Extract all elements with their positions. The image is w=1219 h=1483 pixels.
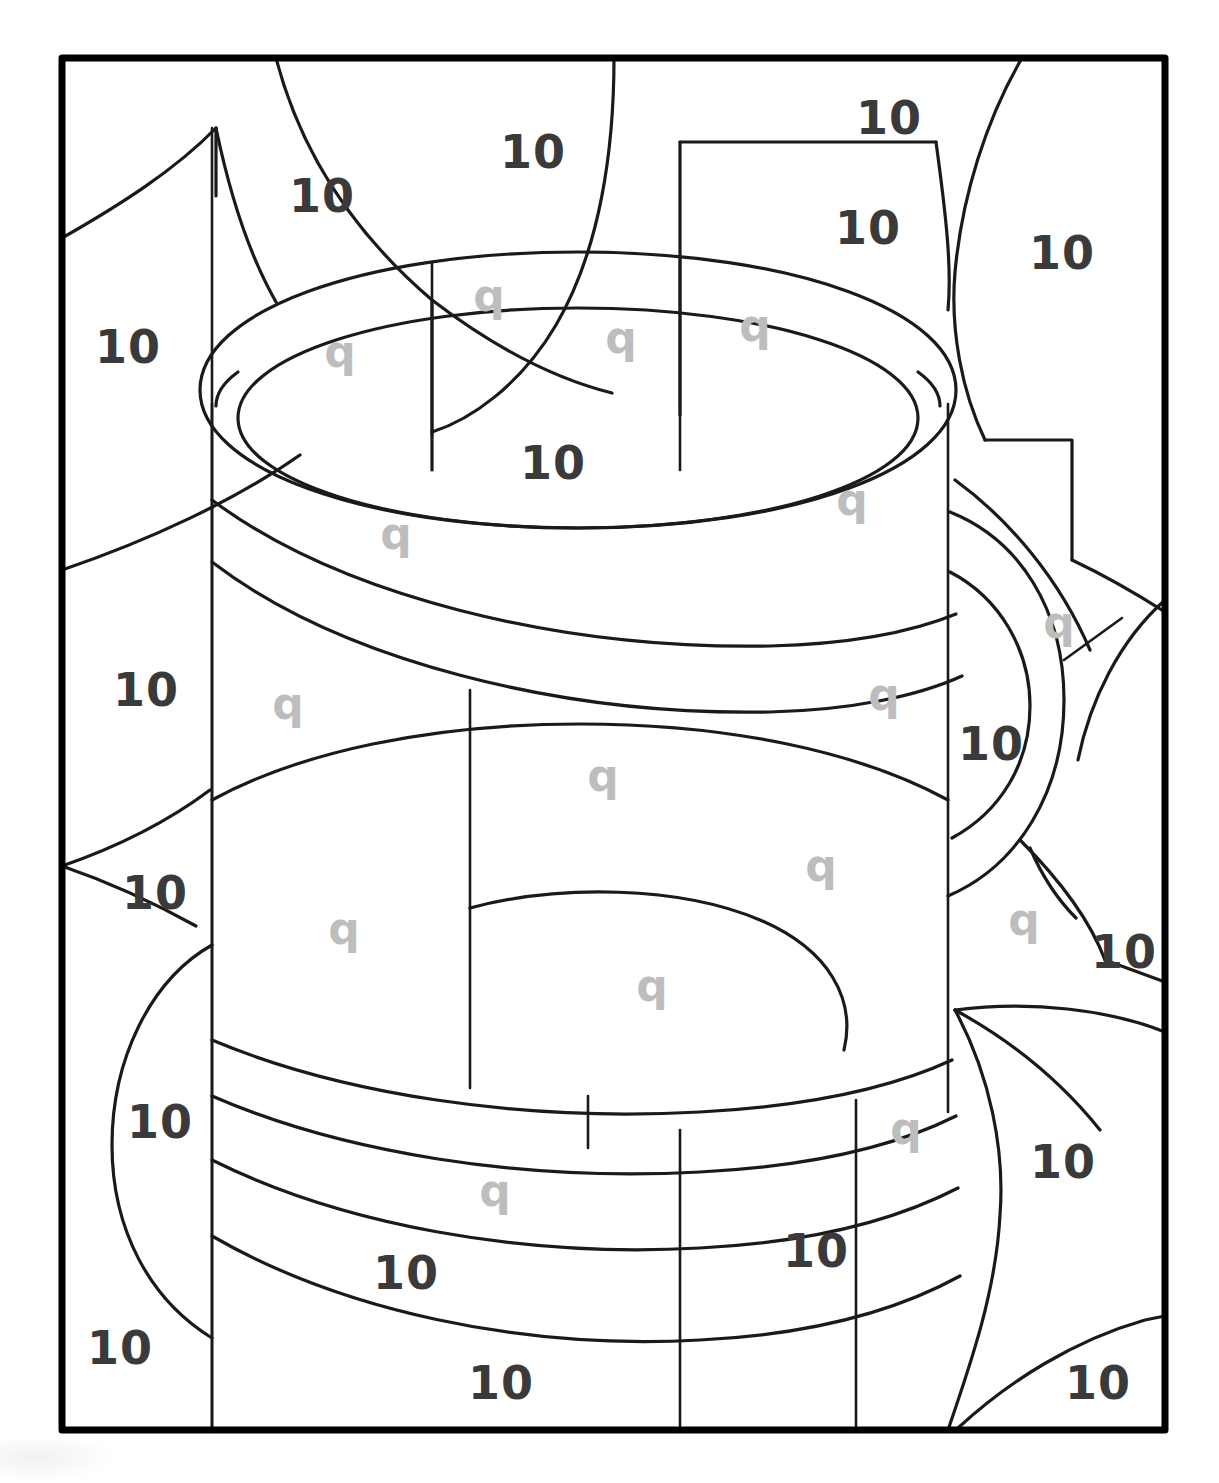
mug-mid-ellipse-bottom: [212, 800, 948, 876]
region-letter-label: q: [636, 964, 668, 1008]
region-number-label: 10: [835, 205, 901, 251]
region-number-label: 10: [1029, 230, 1095, 276]
bg-line-right-lower-b: [948, 1010, 1001, 1430]
bg-line-tl-wedge: [62, 128, 216, 238]
region-number-label: 10: [958, 721, 1024, 767]
region-number-label: 10: [783, 1228, 849, 1274]
region-letter-label: q: [324, 330, 356, 374]
bg-line-right-lower-c: [955, 1010, 1100, 1130]
region-letter-label: q: [473, 274, 505, 318]
mug-line-art: [0, 0, 1219, 1483]
mug-band2-bottom: [212, 1096, 956, 1174]
mug-handle-inner-arc: [950, 572, 1030, 838]
mug-mid-ellipse-second: [212, 762, 948, 838]
region-letter-label: q: [479, 1169, 511, 1213]
region-letter-label: q: [739, 304, 771, 348]
region-letter-label: q: [836, 478, 868, 522]
bg-line-right-upper: [1072, 560, 1165, 612]
bg-line-tl-wedge-right: [216, 128, 276, 302]
bg-line-right-mid-b: [1078, 600, 1165, 760]
region-letter-label: q: [868, 673, 900, 717]
mug-rim-hook-left: [216, 372, 238, 406]
region-number-label: 10: [500, 129, 566, 175]
region-number-label: 10: [289, 173, 355, 219]
region-number-label: 10: [468, 1360, 534, 1406]
bg-line-top-sweep-mid: [432, 58, 614, 432]
mug-rim-hook-right: [918, 372, 940, 406]
mug-band2-top: [212, 1040, 952, 1114]
bg-line-top-right-curve: [954, 58, 1022, 440]
region-number-label: 10: [1091, 929, 1157, 975]
region-number-label: 10: [95, 324, 161, 370]
region-letter-label: q: [890, 1107, 922, 1151]
region-number-label: 10: [1030, 1139, 1096, 1185]
region-number-label: 10: [113, 667, 179, 713]
region-number-label: 10: [856, 95, 922, 141]
bg-line-left-mid-curve-b: [62, 790, 210, 866]
region-letter-label: q: [605, 316, 637, 360]
region-number-label: 10: [87, 1325, 153, 1371]
mug-band1-bottom: [212, 562, 962, 712]
mug-mid-ellipse-top: [212, 724, 948, 800]
region-letter-label: q: [805, 844, 837, 888]
region-letter-label: q: [1008, 898, 1040, 942]
region-number-label: 10: [127, 1099, 193, 1145]
region-letter-label: q: [1043, 601, 1075, 645]
bg-line-bottom-right-curve: [958, 1316, 1165, 1428]
region-number-label: 10: [520, 440, 586, 486]
region-letter-label: q: [328, 907, 360, 951]
region-number-label: 10: [122, 870, 188, 916]
region-letter-label: q: [587, 754, 619, 798]
bg-line-top-band-right: [936, 142, 949, 310]
mug-handle-outer-arc: [948, 512, 1064, 896]
region-letter-label: q: [380, 512, 412, 556]
region-number-label: 10: [373, 1250, 439, 1296]
region-letter-label: q: [272, 682, 304, 726]
region-number-label: 10: [1065, 1360, 1131, 1406]
bg-line-left-mid-curve-a: [62, 455, 300, 570]
coloring-page-canvas: 101010101010qqqq10qqq10qq10qq10qq10q10q1…: [0, 0, 1219, 1483]
